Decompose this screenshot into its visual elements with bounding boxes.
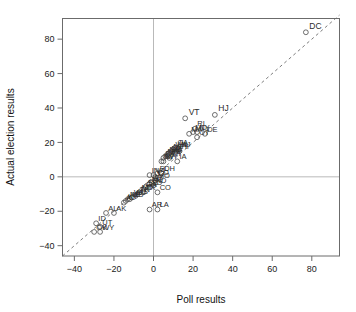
- y-tick-label: 80: [44, 34, 54, 44]
- point-label: IA: [179, 152, 186, 161]
- point-marker: [212, 112, 217, 117]
- x-tick-label: 0: [151, 264, 156, 274]
- x-tick-label: −20: [106, 264, 121, 274]
- point-marker: [183, 116, 188, 121]
- y-axis-ticks: −40−20020406080: [39, 34, 62, 251]
- data-point: HJ: [212, 103, 228, 117]
- point-label: AL: [126, 193, 135, 202]
- y-tick-label: 40: [44, 103, 54, 113]
- y-axis-title: Actual election results: [5, 88, 16, 185]
- point-label: LA: [160, 200, 169, 209]
- point-label: HJ: [218, 103, 228, 113]
- x-tick-label: 60: [267, 264, 277, 274]
- y-tick-label: 20: [44, 138, 54, 148]
- point-marker: [303, 30, 308, 35]
- point-label: WY: [102, 223, 114, 232]
- point-label: CO: [160, 183, 171, 192]
- data-point: DC: [303, 21, 321, 35]
- point-label: AK: [116, 204, 126, 213]
- scatter-plot-figure: −40−20020406080 −40−20020406080 DCHJVTDE…: [0, 0, 356, 312]
- y-tick-label: −20: [39, 206, 54, 216]
- x-tick-label: 80: [307, 264, 317, 274]
- x-tick-label: 40: [228, 264, 238, 274]
- y-tick-label: 0: [49, 172, 54, 182]
- point-label: DC: [309, 21, 321, 31]
- y-tick-label: −40: [39, 241, 54, 251]
- point-label: MD: [195, 123, 207, 132]
- data-points-layer: DCHJVTDERINYMACTMDNJILCAWAHIMIMENMORWIMN…: [92, 21, 322, 235]
- x-tick-label: −40: [67, 264, 82, 274]
- y-tick-label: 60: [44, 69, 54, 79]
- point-label: NV: [164, 152, 174, 161]
- x-axis-title: Poll results: [177, 294, 226, 305]
- x-axis-ticks: −40−20020406080: [67, 256, 317, 274]
- poll-vs-election-scatter: −40−20020406080 −40−20020406080 DCHJVTDE…: [0, 0, 356, 312]
- point-label: VT: [189, 107, 200, 117]
- x-tick-label: 20: [188, 264, 198, 274]
